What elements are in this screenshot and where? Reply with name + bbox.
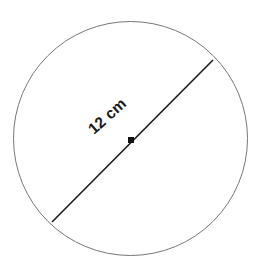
figure-background — [0, 0, 260, 269]
center-dot — [128, 137, 134, 143]
circle-diameter-figure: 12 cm — [0, 0, 260, 269]
geometry-canvas: 12 cm — [0, 0, 260, 269]
